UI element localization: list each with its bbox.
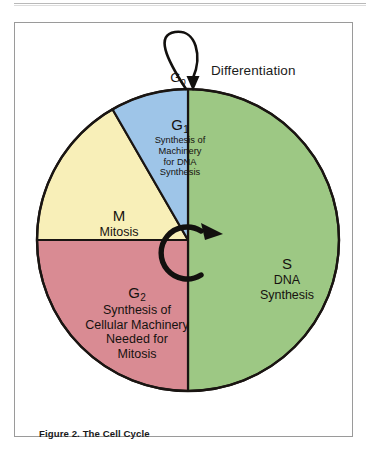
- g1-phase-label: G1 Synthesis of Machinery for DNA Synthe…: [143, 117, 217, 178]
- g1-phase-desc-line-1: Synthesis of: [143, 135, 217, 146]
- g2-phase-desc-line-4: Mitosis: [61, 347, 213, 362]
- g0-label: G0: [165, 70, 191, 87]
- g2-phase-label: G2 Synthesis of Cellular Machinery Neede…: [61, 285, 213, 362]
- differentiation-label: Differentiation: [211, 63, 296, 78]
- page-top-rule-secondary: [14, 5, 366, 6]
- m-phase-label: M Mitosis: [73, 208, 165, 239]
- g2-phase-desc-line-3: Needed for: [61, 332, 213, 347]
- g1-phase-desc-line-3: for DNA: [143, 157, 217, 168]
- s-phase-desc-line-1: DNA: [237, 273, 337, 288]
- g1-phase-desc-line-2: Machinery: [143, 146, 217, 157]
- figure-panel: G0 Differentiation G1 Synthesis of Machi…: [14, 22, 353, 437]
- s-phase-label: S DNA Synthesis: [237, 256, 337, 302]
- g1-phase-name: G1: [143, 117, 217, 135]
- m-phase-name: M: [73, 208, 165, 225]
- s-phase-name: S: [237, 256, 337, 273]
- page-top-rule: [14, 3, 366, 4]
- g0-label-text: G: [170, 70, 181, 85]
- s-phase-desc-line-2: Synthesis: [237, 288, 337, 303]
- figure-caption: Figure 2. The Cell Cycle: [39, 428, 150, 439]
- g2-phase-desc-line-1: Synthesis of: [61, 303, 213, 318]
- m-phase-desc-line-1: Mitosis: [73, 225, 165, 239]
- g0-label-subscript: 0: [181, 77, 186, 87]
- g2-phase-name: G2: [61, 285, 213, 303]
- g1-phase-desc-line-4: Synthesis: [143, 167, 217, 178]
- g2-phase-desc-line-2: Cellular Machinery: [61, 318, 213, 333]
